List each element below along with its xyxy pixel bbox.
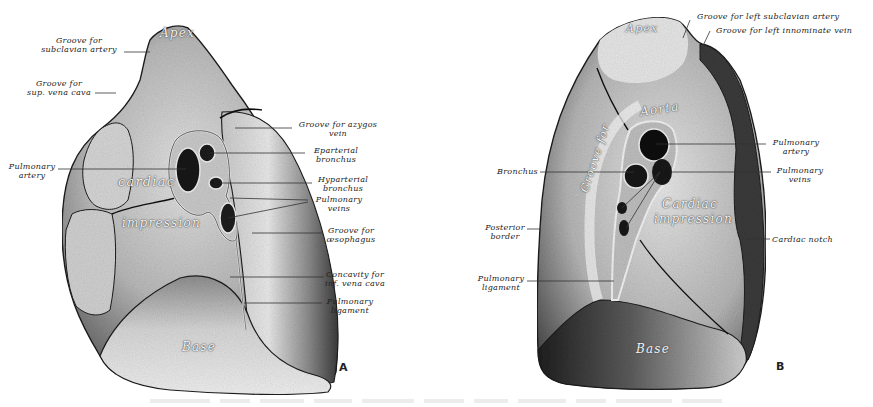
label-b-groove-left-subclavian: Groove for left subclavian artery [697, 12, 839, 21]
lung-b-pulmonary-artery-vessel [639, 129, 669, 161]
label-b-pulmonary-artery: Pulmonary artery [768, 138, 824, 156]
label-b-groove-left-innominate: Groove for left innominate vein [716, 26, 852, 35]
region-b-base: Base [636, 342, 670, 356]
region-a-impression: impression [122, 216, 201, 230]
lung-b-lower-vein-2 [619, 220, 629, 236]
label-b-pulmonary-veins: Pulmonary veins [772, 166, 828, 184]
label-a-hyparterial-bronchus: Hyparterial bronchus [312, 175, 374, 193]
label-a-concavity-ivc: Concavity for inf. vena cava [322, 270, 388, 288]
panel-letter-a: A [339, 361, 348, 374]
lung-b-pulmonary-vein-vessel [652, 159, 672, 185]
figure-lungs-mediastinal: Apex cardiac impression Base Apex Aorta … [0, 0, 873, 407]
lung-a-anterior-lower-block [65, 210, 115, 315]
caption-smudge [150, 397, 750, 405]
label-a-pulmonary-ligament: Pulmonary ligament [322, 297, 378, 315]
panel-letter-b: B [776, 360, 784, 373]
region-a-cardiac: cardiac [118, 174, 175, 189]
label-a-groove-subclavian: Groove for subclavian artery [34, 36, 124, 54]
label-b-cardiac-notch: Cardiac notch [772, 235, 833, 244]
lung-a-anterior-upper-block [83, 123, 134, 209]
label-b-posterior-border: Posterior border [482, 223, 528, 241]
region-b-cardiac: Cardiac [662, 197, 718, 211]
region-a-apex: Apex [160, 26, 195, 40]
label-b-pulmonary-ligament: Pulmonary ligament [474, 274, 528, 292]
label-a-groove-sup-vena-cava: Groove for sup. vena cava [20, 79, 98, 97]
lung-a-pulmonary-artery-vessel [176, 148, 200, 192]
label-a-groove-azygos: Groove for azygos vein [292, 120, 384, 138]
region-a-base: Base [182, 340, 216, 354]
figure-caption-faint [150, 397, 750, 405]
lung-b [537, 18, 766, 390]
label-a-groove-oesophagus: Groove for œsophagus [322, 226, 380, 244]
lung-b-bronchus-vessel [624, 164, 648, 188]
illustration-canvas [0, 0, 873, 407]
label-a-pulmonary-veins: Pulmonary veins [308, 195, 370, 213]
label-b-bronchus: Bronchus [484, 167, 538, 176]
region-b-apex: Apex [626, 22, 659, 35]
label-a-eparterial-bronchus: Eparterial bronchus [306, 146, 366, 164]
region-b-impression: impression [654, 212, 733, 226]
label-a-pulmonary-artery: Pulmonary artery [4, 162, 60, 180]
